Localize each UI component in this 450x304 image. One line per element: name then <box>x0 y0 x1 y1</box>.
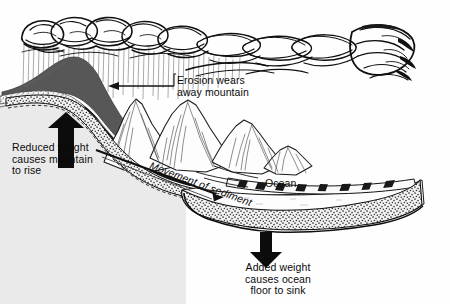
reduced-weight-caption: Reduced weight causes mountain to rise <box>12 142 93 177</box>
isostasy-diagram: Erosion wears away mountain Reduced weig… <box>0 0 450 304</box>
ocean-label: Ocean <box>265 178 296 190</box>
erosion-caption: Erosion wears away mountain <box>177 75 249 98</box>
added-weight-caption: Added weight causes ocean floor to sink <box>228 262 328 297</box>
